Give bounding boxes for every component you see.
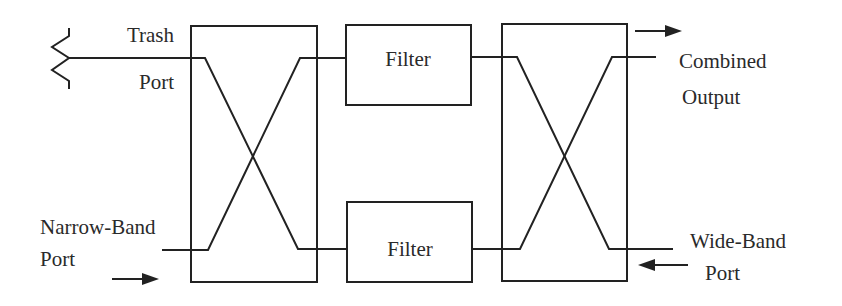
filter-network-diagram: Filter Filter Trash Port (0, 0, 842, 306)
combined-output-label-line1: Combined (679, 49, 767, 73)
combined-output-arrow-right-icon (635, 25, 682, 37)
narrow-band-arrow-right-icon (112, 273, 159, 285)
upper-filter-label: Filter (385, 47, 431, 71)
wide-band-port-label-line1: Wide-Band (690, 229, 786, 253)
narrow-band-port-label-line1: Narrow-Band (40, 215, 156, 239)
diagram-svg: Filter Filter Trash Port (0, 0, 842, 306)
combined-output-label-line2: Output (682, 85, 741, 109)
trash-port-label-line1: Trash (127, 23, 175, 47)
wide-band-port-label-line2: Port (705, 261, 740, 285)
narrow-band-to-upper-filter-wire (162, 58, 346, 250)
resistor-termination-icon (52, 28, 69, 89)
lower-filter-label: Filter (387, 237, 433, 261)
trash-port-label-line2: Port (139, 70, 174, 94)
wide-band-arrow-left-icon (638, 259, 688, 271)
narrow-band-port-label-line2: Port (40, 247, 75, 271)
